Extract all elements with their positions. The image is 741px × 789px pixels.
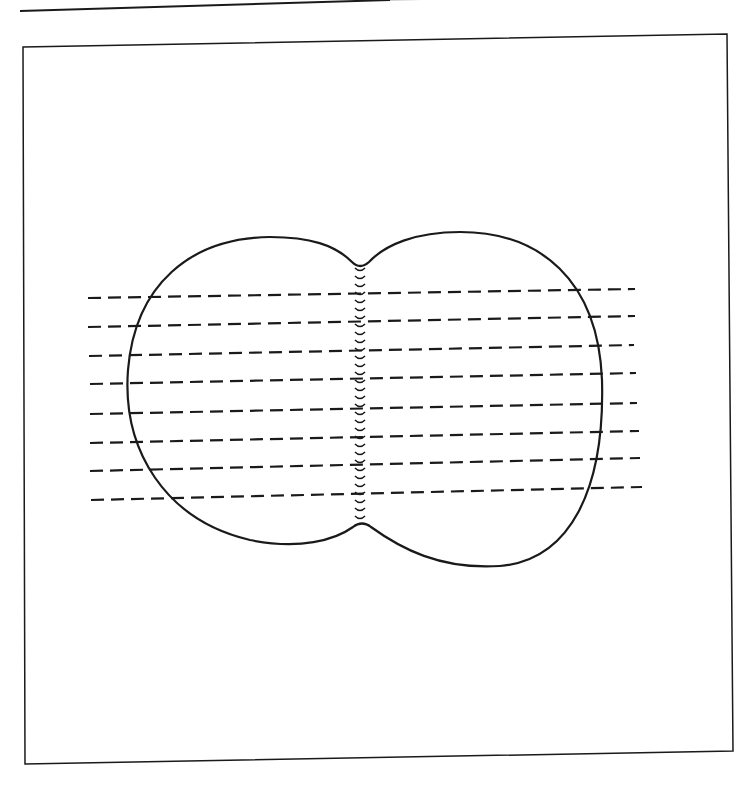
seam-stitch — [355, 484, 365, 487]
dashed-line-8 — [91, 487, 642, 500]
seam-stitch — [355, 364, 365, 367]
seam-stitch — [355, 428, 365, 431]
seam-stitch — [355, 348, 365, 351]
seam-stitch — [355, 340, 365, 343]
seam-stitch — [355, 420, 365, 423]
seam-stitch — [355, 500, 365, 503]
seam-stitch — [355, 284, 365, 287]
seam-stitch — [355, 476, 365, 479]
diagram-canvas — [0, 0, 741, 789]
seam-stitch — [355, 516, 365, 519]
seam-stitch — [355, 356, 365, 359]
seam-stitch — [355, 324, 365, 327]
seam-stitch — [355, 332, 365, 335]
seam-stitch — [355, 452, 365, 455]
seam-stitch — [355, 404, 365, 407]
seam-stitch — [355, 388, 365, 391]
figure-frame — [23, 34, 733, 764]
seam-stitch — [355, 372, 365, 375]
seam-stitch — [355, 316, 365, 319]
seam-stitch — [355, 460, 365, 463]
seam-stitch — [355, 300, 365, 303]
seam-stitch — [355, 444, 365, 447]
seam-stitch — [355, 412, 365, 415]
top-rule-line — [20, 0, 390, 11]
seam-stitch — [355, 508, 365, 511]
seam-stitch — [355, 396, 365, 399]
stitched-seam — [355, 268, 365, 519]
seam-stitch — [355, 468, 365, 471]
seam-stitch — [355, 308, 365, 311]
seam-stitch — [355, 268, 365, 271]
seam-stitch — [355, 276, 365, 279]
seam-stitch — [355, 380, 365, 383]
